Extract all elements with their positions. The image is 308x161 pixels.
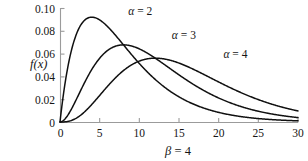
series-label-alpha-2: α = 2 [128,5,152,17]
x-tick-label: 30 [292,127,304,139]
y-tick-label: 0.04 [35,71,55,83]
y-axis-title: f(x) [30,57,47,71]
x-axis-title: β = 4 [164,144,192,158]
series-label-alpha-3: α = 3 [172,29,196,41]
y-tick-label: 0.08 [35,25,55,37]
series-label-alpha-4: α = 4 [223,48,247,60]
x-tick-label: 15 [173,127,185,139]
x-tick-label: 10 [134,127,146,139]
y-tick-label: 0.02 [35,94,55,106]
x-tick-label: 5 [97,127,103,139]
y-tick-label: 0.10 [35,3,55,15]
chart-canvas: 00.020.040.060.080.10 051015202530 α = 2… [0,0,308,161]
x-tick-label: 20 [213,127,225,139]
x-tick-label: 0 [58,127,64,139]
gamma-density-figure: 00.020.040.060.080.10 051015202530 α = 2… [0,0,308,161]
x-tick-label: 25 [253,127,265,139]
y-tick-label: 0 [49,117,55,129]
